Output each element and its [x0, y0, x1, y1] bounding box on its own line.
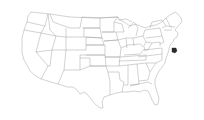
states-layer — [22, 12, 182, 108]
us-map — [0, 0, 204, 120]
highlight-callout[interactable] — [172, 48, 177, 53]
highlighted-state-delaware[interactable] — [172, 48, 177, 53]
us-outline — [22, 12, 182, 108]
